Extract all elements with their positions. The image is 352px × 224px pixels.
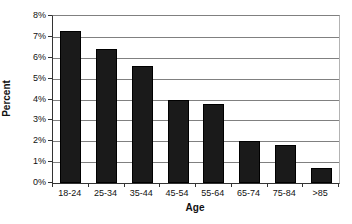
- x-axis-tick: [52, 183, 53, 187]
- y-axis-tick: [48, 119, 52, 120]
- x-axis-tick-label: 35-44: [123, 188, 159, 198]
- y-axis-tick: [48, 57, 52, 58]
- bar: [96, 49, 117, 183]
- x-axis-tick: [338, 183, 339, 187]
- x-axis-tick-label: 55-64: [195, 188, 231, 198]
- bar: [60, 31, 81, 183]
- y-axis-tick: [48, 161, 52, 162]
- y-axis-tick-label: 2%: [6, 135, 46, 145]
- x-axis-tick: [124, 183, 125, 187]
- bar: [132, 66, 153, 183]
- y-axis-tick-label: 3%: [6, 114, 46, 124]
- y-axis-tick-label: 7%: [6, 31, 46, 41]
- x-axis-tick: [302, 183, 303, 187]
- x-axis-tick-label: 75-84: [266, 188, 302, 198]
- y-axis-tick-label: 0%: [6, 177, 46, 187]
- y-axis-tick-label: 1%: [6, 156, 46, 166]
- x-axis-tick: [159, 183, 160, 187]
- y-axis-tick: [48, 78, 52, 79]
- bar: [275, 145, 296, 183]
- plot-area: [52, 15, 340, 184]
- x-axis-tick: [231, 183, 232, 187]
- y-axis-tick-label: 5%: [6, 73, 46, 83]
- x-axis-tick: [267, 183, 268, 187]
- y-axis-tick-label: 8%: [6, 10, 46, 20]
- x-axis-tick: [195, 183, 196, 187]
- y-axis-tick-label: 6%: [6, 52, 46, 62]
- y-axis-tick: [48, 15, 52, 16]
- y-axis-tick: [48, 99, 52, 100]
- bar-chart: Percent 0%1%2%3%4%5%6%7%8% 18-2425-3435-…: [0, 0, 352, 224]
- x-axis-tick: [88, 183, 89, 187]
- x-axis-tick-label: 65-74: [231, 188, 267, 198]
- y-axis-tick: [48, 36, 52, 37]
- x-axis-tick-label: 45-54: [159, 188, 195, 198]
- bar: [311, 168, 332, 183]
- bar: [168, 100, 189, 184]
- bar: [239, 141, 260, 183]
- bar: [203, 104, 224, 183]
- x-axis-tick-label: 25-34: [88, 188, 124, 198]
- x-axis-tick-label: 18-24: [52, 188, 88, 198]
- y-axis-tick-label: 4%: [6, 94, 46, 104]
- y-axis-tick: [48, 140, 52, 141]
- x-axis-tick-label: >85: [302, 188, 338, 198]
- gridline: [53, 37, 339, 38]
- x-axis-title: Age: [52, 202, 338, 213]
